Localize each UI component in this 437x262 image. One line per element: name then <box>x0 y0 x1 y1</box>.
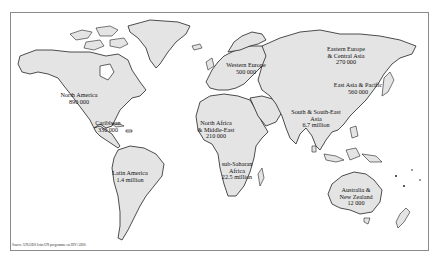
south-america <box>112 146 164 240</box>
region-value: 330 000 <box>95 127 120 134</box>
source-note: Source: UNAIDS Joint UN programme on HIV… <box>12 243 87 247</box>
label-caribbean: Caribbean 330 000 <box>95 120 120 133</box>
region-value: 6.7 million <box>291 122 341 129</box>
label-latin-america: Latin America 1.4 million <box>112 170 148 183</box>
region-value: 500 000 <box>226 69 266 76</box>
region-value: 210 000 <box>198 133 235 140</box>
region-value: 890 000 <box>61 99 98 106</box>
label-western-europe: Western Europe 500 000 <box>226 62 266 75</box>
region-value: 1.4 million <box>112 177 148 184</box>
label-australia-new-zealand: Australia & New Zealand 12 000 <box>339 187 372 207</box>
label-north-america: North America 890 000 <box>61 92 98 105</box>
label-eastern-europe-central-asia: Eastern Europe & Central Asia 270 000 <box>327 46 365 66</box>
north-america <box>18 50 146 128</box>
region-value: 22.5 million <box>222 174 253 181</box>
label-east-asia-pacific: East Asia & Pacific 560 000 <box>334 82 382 95</box>
region-value: 560 000 <box>334 89 382 96</box>
label-north-africa-middle-east: North Africa & Middle-East 210 000 <box>198 120 235 140</box>
label-south-southeast-asia: South & South-East Asia 6.7 million <box>291 109 341 129</box>
label-sub-saharan-africa: sub-Saharan Africa 22.5 million <box>222 161 253 181</box>
greenland <box>128 20 190 68</box>
region-value: 270 000 <box>327 59 365 66</box>
region-value: 12 000 <box>339 200 372 207</box>
